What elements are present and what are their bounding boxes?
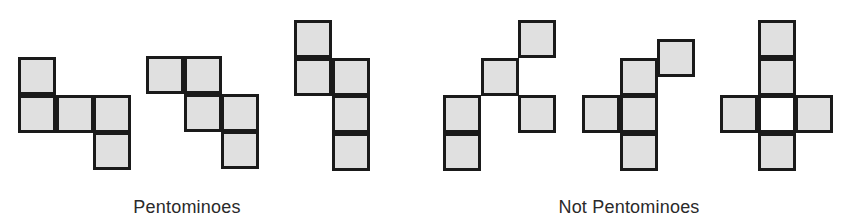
square xyxy=(56,95,94,133)
square xyxy=(620,95,658,133)
pentominoes-caption: Pentominoes xyxy=(133,197,240,217)
square xyxy=(93,132,131,170)
square xyxy=(332,58,370,96)
square xyxy=(758,58,796,96)
square xyxy=(294,58,332,96)
square xyxy=(481,58,519,96)
square xyxy=(294,20,332,58)
square xyxy=(332,95,370,133)
square xyxy=(758,133,796,171)
pentomino-diagram: Pentominoes Not Pentominoes xyxy=(0,0,855,217)
square xyxy=(221,131,259,169)
square xyxy=(146,56,184,94)
square xyxy=(18,95,56,133)
square xyxy=(184,56,222,94)
square xyxy=(443,133,481,171)
square xyxy=(758,20,796,58)
square xyxy=(620,133,658,171)
empty-square xyxy=(758,95,796,133)
square xyxy=(582,95,620,133)
square xyxy=(518,20,556,58)
square xyxy=(720,95,758,133)
square xyxy=(221,94,259,132)
square xyxy=(620,58,658,96)
square xyxy=(518,95,556,133)
square xyxy=(795,95,833,133)
square xyxy=(93,95,131,133)
square xyxy=(184,94,222,132)
square xyxy=(332,133,370,171)
not-pentominoes-caption: Not Pentominoes xyxy=(558,197,699,217)
square xyxy=(443,95,481,133)
square xyxy=(18,57,56,95)
square xyxy=(657,39,695,77)
